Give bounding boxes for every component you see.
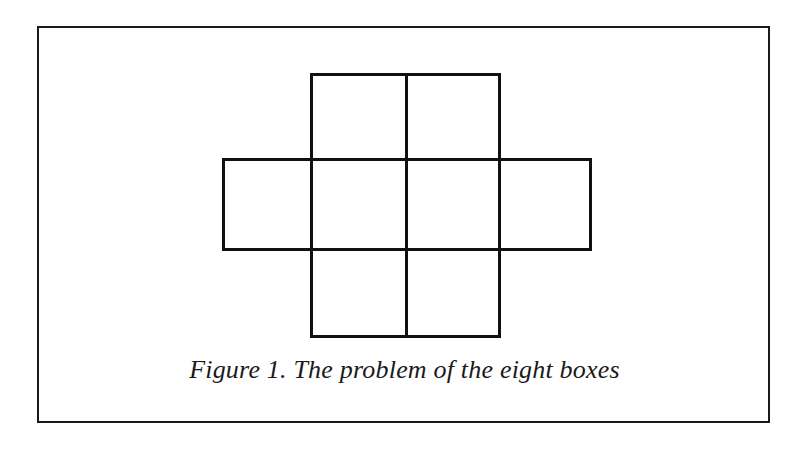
box-bottom-right	[405, 248, 501, 338]
box-top-right	[405, 73, 501, 161]
figure-caption: Figure 1. The problem of the eight boxes	[37, 355, 772, 385]
box-mid-far-left	[222, 158, 313, 251]
box-mid-right	[405, 158, 501, 251]
box-bottom-left	[310, 248, 408, 338]
box-mid-far-right	[498, 158, 592, 251]
box-top-left	[310, 73, 408, 161]
box-mid-left	[310, 158, 408, 251]
